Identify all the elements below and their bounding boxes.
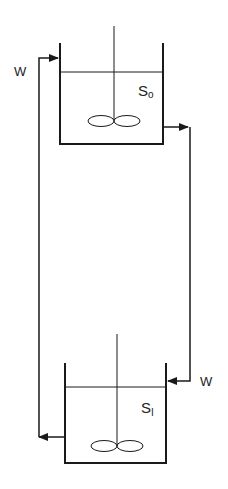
flow-label-left: W xyxy=(14,64,27,79)
right-flow-line xyxy=(163,127,190,381)
lower-tank: SI xyxy=(65,334,166,463)
flow-label-right: W xyxy=(200,374,213,389)
lower-tank-label: SI xyxy=(141,399,154,418)
left-flow-line xyxy=(39,58,65,437)
recycle-diagram: So SI W W xyxy=(0,0,228,489)
upper-tank-label: So xyxy=(138,82,154,100)
upper-tank: So xyxy=(60,26,163,144)
